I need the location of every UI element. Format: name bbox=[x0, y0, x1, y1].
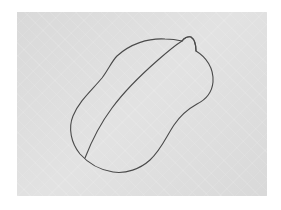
image-frame: Hand-drawn pencil sketch of a computer m… bbox=[0, 0, 281, 210]
mouse-outline bbox=[71, 37, 213, 173]
mouse-button-divider-line bbox=[85, 41, 182, 158]
mouse-sketch bbox=[0, 0, 281, 210]
mouse-cable-bump bbox=[182, 37, 196, 51]
